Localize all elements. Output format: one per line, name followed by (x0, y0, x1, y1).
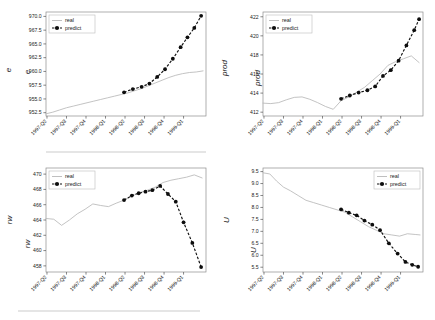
legend-label-predict: predict (65, 181, 82, 187)
data-point-marker (199, 14, 203, 18)
legend-label-predict: predict (65, 25, 82, 31)
panel-rw: 4584604624644664684701997-Q21997-Q31997-… (0, 158, 218, 320)
data-point-marker (365, 88, 369, 92)
x-tick-label: 1998-Q2 (324, 274, 342, 292)
y-tick-label: 962.5 (29, 54, 42, 60)
x-tick-label: 1997-Q4 (285, 118, 303, 136)
panel-U: 5.56.06.57.07.58.08.59.09.51997-Q21997-Q… (217, 158, 435, 320)
x-tick-label: 1997-Q4 (285, 274, 303, 292)
panel-e: 952.5955.0957.5960.0962.5965.0967.5970.0… (0, 0, 218, 160)
y-axis-label: U (222, 217, 231, 223)
x-tick-label: 1997-Q2 (246, 118, 264, 136)
x-tick-label: 1997-Q3 (49, 118, 67, 136)
y-tick-label: 6.5 (252, 240, 259, 246)
x-tick-label: 1997-Q4 (68, 274, 86, 292)
y-tick-label: 970.0 (29, 13, 42, 19)
data-point-marker (122, 90, 126, 94)
x-tick-label: 1997-Q3 (49, 274, 67, 292)
legend: realpredict (374, 171, 420, 189)
series-line-predict (124, 186, 201, 267)
data-point-marker (148, 82, 152, 86)
data-point-marker (410, 263, 414, 267)
x-tick-label: 1998-Q3 (344, 118, 362, 136)
x-tick-label: 1998-Q1 (88, 274, 106, 292)
y-axis-label: e (4, 67, 13, 72)
data-point-marker (171, 57, 175, 61)
data-point-marker (137, 191, 141, 195)
x-tick-label: 1997-Q3 (266, 118, 284, 136)
data-point-marker (416, 265, 420, 269)
y-tick-label: 8.5 (252, 192, 259, 198)
data-point-marker (363, 219, 367, 223)
y-tick-label: 9.0 (252, 180, 259, 186)
y-tick-label: 965.0 (29, 41, 42, 47)
y-tick-label: 7.0 (252, 228, 259, 234)
legend-label-predict: predict (282, 25, 299, 31)
data-point-marker (389, 68, 393, 72)
y-tick-label: 460 (33, 247, 42, 253)
x-tick-label: 1997-Q4 (68, 118, 86, 136)
y-axis-label: rw (5, 215, 14, 225)
data-point-marker (130, 194, 134, 198)
legend-label-real: real (282, 17, 291, 23)
data-point-marker (348, 94, 352, 98)
y-tick-label: 955.0 (29, 96, 42, 102)
data-point-marker (347, 211, 351, 215)
x-tick-label: 1997-Q2 (246, 274, 264, 292)
data-point-marker (357, 91, 361, 95)
data-point-marker (339, 207, 343, 211)
legend-label-predict: predict (390, 181, 407, 187)
y-axis-label-overlay: rw (23, 239, 32, 249)
data-point-marker (339, 97, 343, 101)
y-axis-label-overlay: e (23, 69, 32, 74)
y-axis-label-overlay: prod (253, 69, 262, 87)
data-point-marker (190, 241, 194, 245)
x-tick-label: 1999-Q1 (166, 118, 184, 136)
y-axis-label-overlay: U (249, 247, 258, 253)
panel-prod: 4124144164184204221997-Q21997-Q31997-Q41… (217, 0, 435, 160)
legend-label-real: real (65, 173, 74, 179)
x-tick-label: 1998-Q1 (88, 118, 106, 136)
y-tick-label: 7.5 (252, 216, 259, 222)
y-tick-label: 470 (33, 171, 42, 177)
data-point-marker (373, 85, 377, 89)
data-point-marker (355, 213, 359, 217)
data-point-marker (378, 228, 382, 232)
data-point-marker (405, 43, 409, 47)
x-tick-label: 1997-Q2 (29, 118, 47, 136)
data-point-marker (174, 200, 178, 204)
y-tick-label: 8.0 (252, 204, 259, 210)
x-tick-label: 1998-Q4 (146, 274, 164, 292)
y-tick-label: 466 (33, 202, 42, 208)
series-line-real (263, 56, 419, 109)
panel-e-svg: 952.5955.0957.5960.0962.5965.0967.5970.0… (0, 0, 218, 160)
data-point-marker (179, 45, 183, 49)
y-tick-label: 414 (250, 90, 259, 96)
y-axis-label: prod (220, 59, 229, 77)
data-point-marker (122, 198, 126, 202)
x-tick-label: 1998-Q4 (363, 274, 381, 292)
data-point-marker (150, 188, 154, 192)
y-tick-label: 418 (250, 52, 259, 58)
data-point-marker (396, 252, 400, 256)
legend: realpredict (266, 15, 312, 33)
x-tick-label: 1998-Q1 (305, 118, 323, 136)
panel-U-svg: 5.56.06.57.07.58.08.59.09.51997-Q21997-Q… (217, 158, 435, 320)
panel-prod-svg: 4124144164184204221997-Q21997-Q31997-Q41… (217, 0, 435, 160)
y-tick-label: 468 (33, 186, 42, 192)
y-tick-label: 420 (250, 33, 259, 39)
y-tick-label: 967.5 (29, 27, 42, 33)
y-tick-label: 412 (250, 109, 259, 115)
x-tick-label: 1999-Q1 (383, 118, 401, 136)
x-tick-label: 1998-Q3 (127, 118, 145, 136)
legend: realpredict (49, 15, 95, 33)
data-point-marker (192, 26, 196, 30)
data-point-marker (412, 28, 416, 32)
series-line-predict (124, 16, 201, 92)
data-point-marker (166, 192, 170, 196)
x-tick-label: 1998-Q3 (127, 274, 145, 292)
data-point-marker (417, 17, 421, 21)
data-point-marker (163, 67, 167, 71)
legend: realpredict (49, 171, 95, 189)
data-point-marker (158, 184, 162, 188)
